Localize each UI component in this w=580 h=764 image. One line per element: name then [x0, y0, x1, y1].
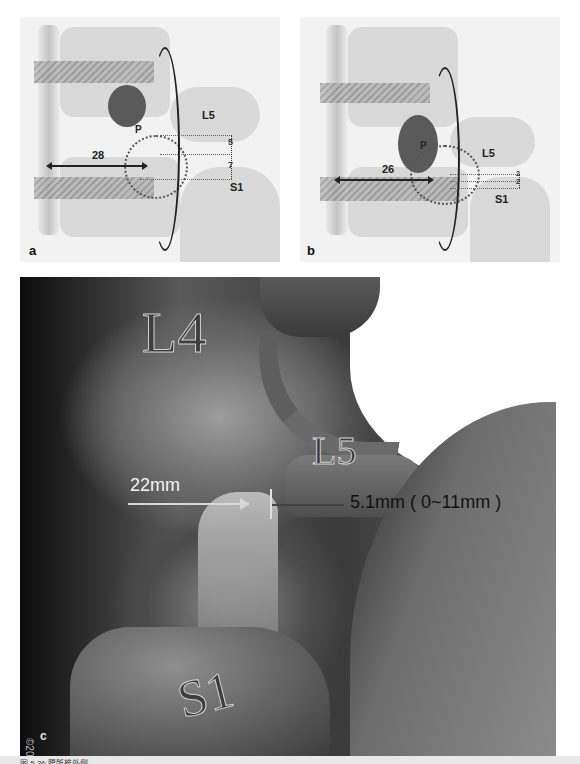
vertical-measure-upper: 5 [228, 137, 233, 147]
measure-guide-bottom [140, 179, 232, 180]
panel-letter-a: a [29, 243, 36, 258]
horizontal-measure-arrow [48, 165, 146, 167]
horizontal-measure-label: 26 [382, 163, 394, 175]
vertical-measure-label: 5.1mm ( 0~11mm ) [350, 492, 501, 513]
vertical-measure-leader [272, 504, 344, 506]
measure-guide-bottom [450, 188, 520, 189]
l5-label: L5 [202, 109, 215, 121]
horizontal-measure-arrow [336, 179, 432, 181]
sacral-ala [470, 177, 550, 262]
horizontal-measure-label: 28 [92, 149, 104, 161]
pedicle-label: P [135, 124, 142, 135]
panel-letter-c: c [40, 729, 47, 743]
figure-caption: 图 5.36 腰骶椎外侧... [20, 757, 95, 764]
pedicle-label: P [420, 140, 427, 151]
disc-band-upper [320, 83, 430, 103]
figure-panel-a: 28 P L5 S1 5 7 a [20, 17, 280, 262]
nerve-root-loop [430, 67, 460, 251]
measure-guide-top [160, 135, 232, 136]
measure-guide-mid [160, 154, 232, 155]
pedicle-shape [108, 85, 146, 127]
figure-panel-c: L4 L5 S1 22mm 5.1mm ( 0~11mm ) c ©2019 B… [20, 277, 556, 756]
l4-label: L4 [142, 299, 206, 366]
vertical-measure-upper: 2 [516, 170, 520, 177]
figure-panel-b: 26 P L5 S1 2 2 b [300, 17, 560, 262]
anterior-spine-edge [326, 25, 348, 235]
vertical-measure-lower: 2 [516, 178, 520, 185]
anterior-spine-edge [38, 25, 60, 235]
l5-transverse-process [170, 87, 260, 142]
horizontal-measure-arrow [128, 503, 244, 505]
measure-guide-mid [450, 181, 520, 182]
vertical-measure-lower: 7 [228, 160, 233, 170]
l5-label: L5 [482, 147, 495, 159]
nerve-root-loop [150, 47, 180, 251]
s1-label: S1 [230, 181, 243, 193]
panel-letter-b: b [307, 243, 315, 258]
measure-guide-top [450, 174, 520, 175]
arrowhead-icon [240, 498, 250, 510]
horizontal-measure-label: 22mm [130, 475, 180, 496]
disc-band-upper [34, 61, 154, 83]
l5-label: L5 [312, 427, 356, 474]
copyright-text: ©2019 Barrow [24, 738, 35, 756]
s1-label: S1 [495, 193, 508, 205]
